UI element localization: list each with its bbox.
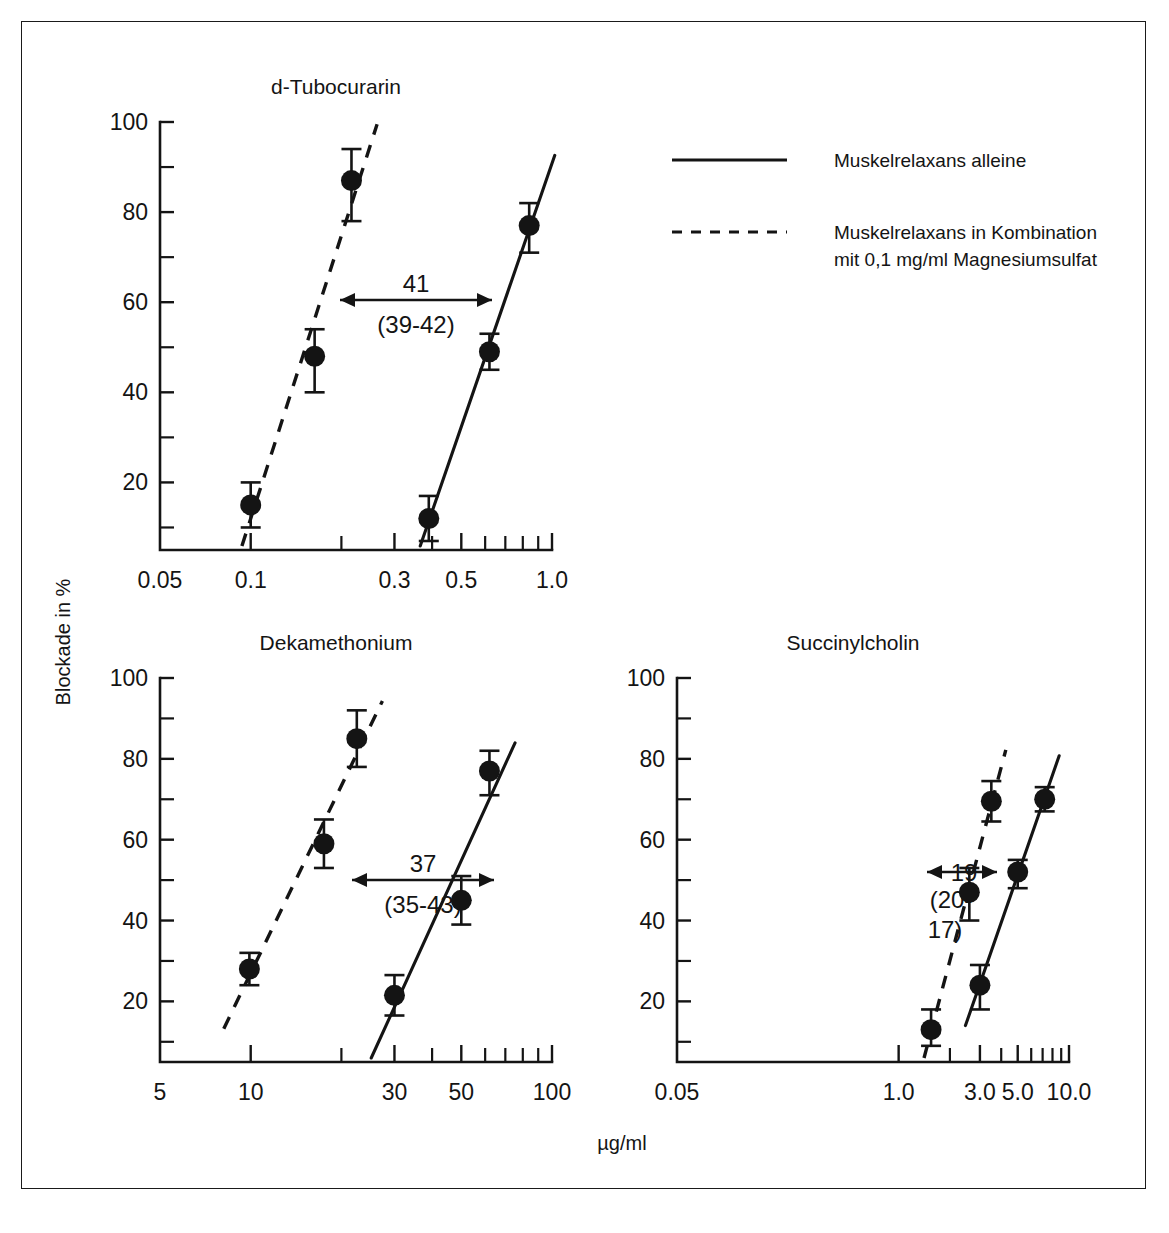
data-point [239, 959, 260, 980]
chart-panel-succinylcholin: Succinylcholin204060801000.051.03.05.010… [627, 631, 1092, 1105]
y-tick-label: 40 [639, 908, 665, 934]
data-point [240, 494, 261, 515]
y-tick-label: 40 [122, 908, 148, 934]
data-point [1007, 862, 1028, 883]
y-tick-label: 60 [122, 289, 148, 315]
fit-line-dashed [224, 701, 383, 1029]
legend-label: Muskelrelaxans alleine [834, 150, 1026, 171]
legend-item-dashed: Muskelrelaxans in Kombinationmit 0,1 mg/… [672, 222, 1098, 270]
data-point [479, 341, 500, 362]
shift-value: 19 [951, 859, 978, 886]
x-tick-label: 30 [382, 1079, 408, 1105]
y-tick-label: 40 [122, 379, 148, 405]
error-bar [313, 819, 334, 868]
panel-title: Dekamethonium [260, 631, 413, 654]
arrow-head-left [352, 873, 367, 887]
panel-title: Succinylcholin [786, 631, 919, 654]
x-axis-title: µg/ml [597, 1132, 646, 1154]
data-point [921, 1019, 942, 1040]
shift-value: 41 [403, 270, 430, 297]
legend-label-line2: mit 0,1 mg/ml Magnesiumsulfat [834, 249, 1098, 270]
legend: Muskelrelaxans alleineMuskelrelaxans in … [672, 150, 1098, 270]
x-tick-label: 1.0 [536, 567, 568, 593]
error-bar [1034, 787, 1055, 811]
legend-item-solid: Muskelrelaxans alleine [672, 150, 1026, 171]
arrow-head-right [479, 873, 494, 887]
chart-panel-d-tubocurarin: d-Tubocurarin204060801000.050.10.30.51.0… [110, 75, 568, 593]
shift-annotation: 19(20-17) [927, 859, 997, 943]
data-point [304, 346, 325, 367]
arrow-head-right [982, 865, 997, 879]
y-tick-label: 80 [639, 746, 665, 772]
shift-range: (39-42) [377, 311, 454, 338]
error-bar [384, 975, 405, 1015]
error-bar [240, 482, 261, 527]
x-tick-label: 0.05 [138, 567, 183, 593]
error-bar [921, 1009, 942, 1045]
shift-annotation: 41(39-42) [340, 270, 492, 338]
x-tick-label: 0.3 [378, 567, 410, 593]
x-tick-label: 5.0 [1002, 1079, 1034, 1105]
x-tick-label: 0.05 [655, 1079, 700, 1105]
x-tick-label: 1.0 [883, 1079, 915, 1105]
shift-range: (35-43) [384, 891, 461, 918]
y-tick-label: 60 [122, 827, 148, 853]
y-tick-label: 80 [122, 199, 148, 225]
data-point [519, 215, 540, 236]
x-tick-label: 50 [449, 1079, 475, 1105]
y-tick-label: 20 [122, 469, 148, 495]
arrow-head-right [477, 293, 492, 307]
error-bar [981, 781, 1002, 821]
error-bar [1007, 860, 1028, 888]
y-tick-label: 20 [122, 988, 148, 1014]
shift-range-line1: (20- [930, 886, 973, 913]
shift-annotation: 37(35-43) [352, 850, 494, 918]
y-tick-label: 60 [639, 827, 665, 853]
data-point [346, 728, 367, 749]
panel-title: d-Tubocurarin [271, 75, 401, 98]
shift-range-line2: 17) [928, 916, 963, 943]
data-point [1034, 789, 1055, 810]
data-point [313, 833, 334, 854]
y-tick-label: 20 [639, 988, 665, 1014]
y-tick-label: 100 [110, 109, 148, 135]
data-point [981, 791, 1002, 812]
error-bar [341, 149, 362, 221]
legend-label: Muskelrelaxans in Kombination [834, 222, 1097, 243]
y-tick-label: 100 [110, 665, 148, 691]
chart-panel-dekamethonium: Dekamethonium20406080100510305010037(35-… [110, 631, 572, 1105]
error-bar [346, 710, 367, 767]
error-bar [479, 751, 500, 795]
x-tick-label: 100 [533, 1079, 571, 1105]
arrow-head-left [340, 293, 355, 307]
x-tick-label: 10 [238, 1079, 264, 1105]
data-point [418, 508, 439, 529]
y-axis-title: Blockade in % [52, 578, 74, 705]
figure-canvas: d-Tubocurarin204060801000.050.10.30.51.0… [22, 22, 1147, 1190]
x-tick-label: 3.0 [964, 1079, 996, 1105]
shift-value: 37 [410, 850, 437, 877]
data-point [479, 760, 500, 781]
x-tick-label: 0.5 [445, 567, 477, 593]
y-tick-label: 80 [122, 746, 148, 772]
x-tick-label: 0.1 [235, 567, 267, 593]
figure-frame: d-Tubocurarin204060801000.050.10.30.51.0… [21, 21, 1146, 1189]
arrow-head-left [927, 865, 942, 879]
x-tick-label: 5 [154, 1079, 167, 1105]
data-point [341, 170, 362, 191]
y-tick-label: 100 [627, 665, 665, 691]
x-tick-label: 10.0 [1047, 1079, 1092, 1105]
data-point [384, 985, 405, 1006]
data-point [969, 975, 990, 996]
